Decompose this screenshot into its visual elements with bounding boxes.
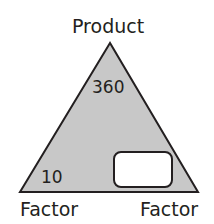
triangle-diagram bbox=[0, 0, 214, 224]
answer-box[interactable] bbox=[114, 152, 172, 187]
left-factor-value: 10 bbox=[41, 168, 63, 186]
product-value: 360 bbox=[92, 78, 124, 96]
left-factor-label: Factor bbox=[20, 199, 78, 219]
right-factor-label: Factor bbox=[140, 199, 198, 219]
